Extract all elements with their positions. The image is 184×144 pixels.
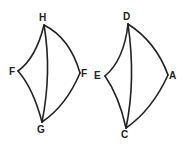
edge-h-fright bbox=[44, 25, 80, 73]
edge-d-e bbox=[105, 24, 128, 76]
edge-e-c bbox=[105, 76, 126, 128]
diagram: H F F G D E A C bbox=[0, 0, 184, 144]
edge-h-g bbox=[42, 25, 48, 122]
label-f-left: F bbox=[9, 66, 15, 77]
edge-d-c bbox=[126, 24, 132, 128]
label-c: C bbox=[121, 129, 128, 140]
right-figure: D E A C bbox=[94, 11, 176, 140]
edge-fleft-g bbox=[18, 71, 42, 122]
edge-a-c bbox=[126, 75, 168, 128]
label-h: H bbox=[39, 12, 46, 23]
label-d: D bbox=[123, 11, 130, 22]
edge-d-a bbox=[128, 24, 168, 75]
label-f-right: F bbox=[81, 68, 87, 79]
edge-h-fleft bbox=[18, 25, 44, 71]
label-a: A bbox=[169, 70, 176, 81]
label-e: E bbox=[94, 70, 101, 81]
left-figure: H F F G bbox=[9, 12, 87, 135]
label-g: G bbox=[37, 124, 45, 135]
